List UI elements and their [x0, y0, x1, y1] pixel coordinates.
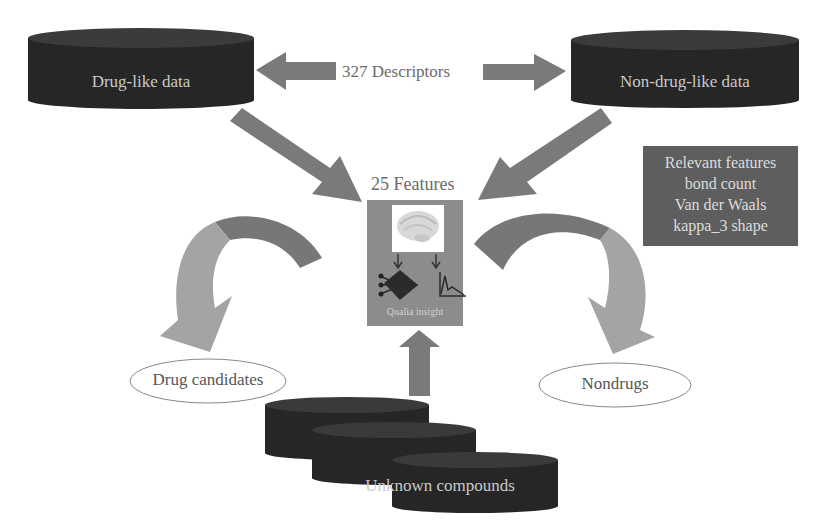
features-count-label: 25 Features	[371, 174, 454, 195]
descriptors-label: 327 Descriptors	[342, 62, 450, 82]
arrow-right-icon	[483, 54, 566, 91]
relevant-feature-item: bond count	[643, 173, 798, 194]
nondrugs-label: Nondrugs	[539, 374, 691, 394]
relevant-feature-item: Van der Waals	[643, 194, 798, 215]
curved-arrow-right-icon	[474, 213, 655, 354]
non-drug-like-data-label: Non-drug-like data	[571, 72, 799, 92]
relevant-feature-item: kappa_3 shape	[643, 215, 798, 236]
unknown-compounds-label: Unknown compounds	[340, 476, 540, 496]
arrow-left-icon	[256, 52, 336, 90]
arrow-diagonal-right-icon	[478, 108, 612, 200]
drug-like-database-icon	[28, 28, 254, 109]
relevant-features-box: Relevant features bond count Van der Waa…	[643, 146, 798, 246]
drug-candidates-label: Drug candidates	[130, 370, 286, 390]
non-drug-like-database-icon	[571, 30, 799, 108]
drug-like-data-label: Drug-like data	[28, 72, 254, 92]
curved-arrow-left-icon	[160, 216, 322, 352]
qualia-insight-label: Qualia insight	[367, 306, 463, 317]
relevant-features-title: Relevant features	[643, 152, 798, 173]
diagram-canvas: Drug-like data Non-drug-like data 327 De…	[0, 0, 824, 532]
arrow-diagonal-left-icon	[230, 108, 362, 202]
arrow-up-icon	[399, 330, 440, 396]
